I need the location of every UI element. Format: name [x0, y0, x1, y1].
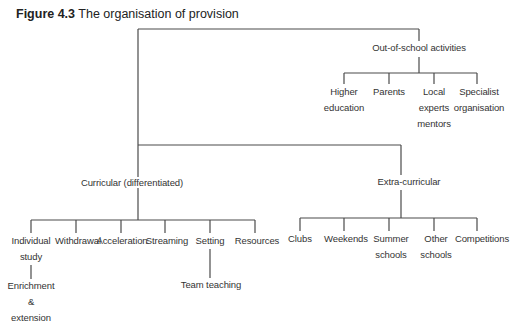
node-setting: Setting — [196, 233, 225, 249]
node-acceleration: Acceleration — [96, 233, 147, 249]
node-streaming: Streaming — [146, 233, 188, 249]
node-extra-curricular: Extra-curricular — [376, 174, 443, 190]
node-competitions: Competitions — [455, 231, 509, 247]
node-curricular-differentiated: Curricular (differentiated) — [79, 175, 185, 191]
node-team-teaching: Team teaching — [181, 277, 242, 293]
node-weekends: Weekends — [324, 231, 368, 247]
node-higher-education: Higher education — [324, 84, 364, 116]
node-enrichment-extension: Enrichment & extension — [7, 278, 54, 326]
node-individual-study: Individual study — [11, 233, 50, 265]
node-parents: Parents — [373, 84, 405, 100]
node-local-experts-mentors: Local experts mentors — [417, 84, 451, 132]
node-resources: Resources — [235, 233, 280, 249]
node-other-schools: Other schools — [420, 231, 452, 263]
node-summer-schools: Summer schools — [373, 231, 408, 263]
node-clubs: Clubs — [288, 231, 312, 247]
node-out-of-school-activities: Out-of-school activities — [370, 40, 468, 56]
node-specialist-organisation: Specialist organisation — [454, 84, 505, 116]
node-withdrawal: Withdrawal — [55, 233, 101, 249]
